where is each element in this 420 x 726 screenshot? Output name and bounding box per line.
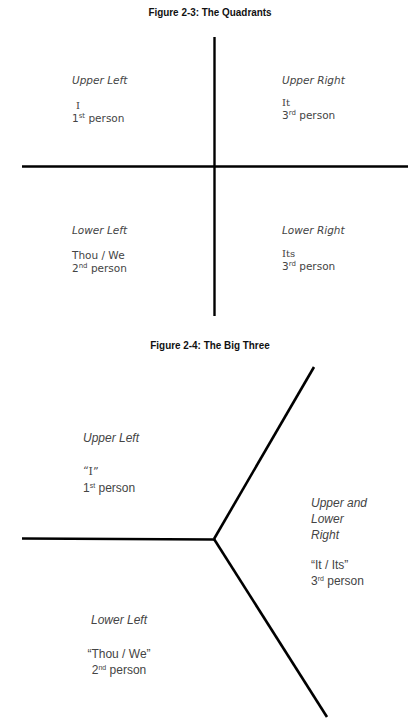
quadrant-upper-right: Upper Right It 3rd person [282, 74, 345, 122]
quadrant-pronoun: Its [282, 247, 345, 260]
quadrant-person: 1st person [72, 112, 127, 125]
quadrant-pronoun: It [282, 96, 345, 109]
quadrant-person: 3rd person [282, 109, 345, 122]
quadrant-pronoun: I [72, 99, 127, 112]
quadrant-heading: Lower Right [282, 224, 345, 237]
region-heading: Lower Left [84, 612, 154, 628]
region-lower-left: Lower Left “Thou / We” 2nd person [84, 612, 154, 678]
big-three-left-line [22, 539, 214, 540]
quadrant-heading: Upper Left [72, 74, 127, 87]
quadrant-heading: Upper Right [282, 74, 345, 87]
quadrant-lower-right: Lower Right Its 3rd person [282, 224, 345, 273]
region-person: 3rd person [311, 573, 367, 589]
quadrant-person: 2nd person [72, 262, 127, 275]
quadrant-lower-left: Lower Left Thou / We 2nd person [72, 224, 127, 275]
region-pronoun: “Thou / We” [84, 646, 154, 662]
region-pronoun: “I” [83, 464, 139, 480]
region-pronoun: “It / Its” [311, 557, 367, 573]
quadrant-upper-left: Upper Left I 1st person [72, 74, 127, 125]
quadrant-heading: Lower Left [72, 224, 127, 237]
diagram-lines [0, 0, 420, 726]
quadrant-pronoun: Thou / We [72, 249, 127, 262]
figure-2-4-title: Figure 2-4: The Big Three [21, 339, 399, 351]
region-upper-and-lower-right: Upper and Lower Right “It / Its” 3rd per… [311, 495, 367, 589]
region-person: 1st person [83, 480, 139, 496]
quadrant-person: 3rd person [282, 260, 345, 273]
region-upper-left: Upper Left “I” 1st person [83, 430, 139, 496]
region-heading: Upper and Lower Right [311, 495, 367, 543]
region-heading: Upper Left [83, 430, 139, 446]
big-three-upper-line [214, 367, 314, 539]
region-person: 2nd person [84, 662, 154, 678]
